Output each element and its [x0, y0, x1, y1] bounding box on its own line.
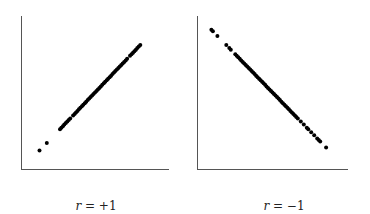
data-point — [45, 141, 49, 145]
data-point — [296, 117, 300, 121]
data-point — [138, 43, 142, 47]
data-point — [38, 149, 42, 153]
data-point — [324, 146, 328, 150]
data-point — [215, 34, 219, 38]
data-point — [312, 133, 316, 137]
scatter-plot-positive: r = +1 — [21, 16, 169, 213]
data-point — [68, 117, 72, 121]
points-group — [38, 43, 143, 153]
data-point — [229, 48, 233, 52]
scatter-plot-negative: r = −1 — [197, 16, 348, 213]
data-point — [224, 43, 228, 47]
points-group — [209, 28, 328, 150]
data-point — [318, 140, 322, 144]
data-point — [125, 57, 129, 61]
data-point — [309, 130, 313, 134]
data-point — [306, 127, 310, 131]
data-point — [211, 29, 215, 33]
data-point — [302, 123, 306, 127]
correlation-figure: r = +1 r = −1 — [0, 0, 370, 214]
caption-positive: r = +1 — [75, 199, 116, 213]
data-point — [299, 120, 303, 124]
caption-negative: r = −1 — [263, 199, 304, 213]
